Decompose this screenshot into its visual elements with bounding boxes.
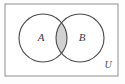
set-a-label: A [37, 31, 45, 43]
set-b-label: B [79, 31, 86, 43]
venn-diagram-canvas: A B U [0, 0, 125, 84]
venn-diagram-figure: A B U [0, 0, 125, 84]
universal-set-label: U [104, 59, 112, 70]
